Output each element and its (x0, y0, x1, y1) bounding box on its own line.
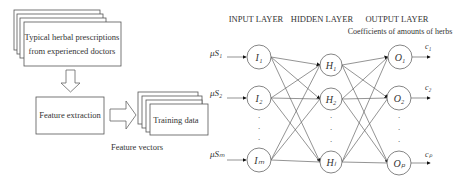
svg-text:·: · (258, 135, 261, 144)
svg-text:Iₘ: Iₘ (253, 155, 264, 166)
input-arrows: μS₁ μS₂ μSₘ (209, 48, 246, 160)
svg-text:·: · (330, 125, 333, 134)
ellipsis-dots: · (258, 113, 261, 122)
prescriptions-line1: Typical herbal prescriptions (25, 32, 120, 42)
svg-text:·: · (330, 137, 333, 146)
coef-label-2: c₂ (425, 83, 432, 92)
svg-text:Oₚ: Oₚ (393, 158, 405, 169)
svg-text:·: · (398, 137, 401, 146)
output-arrows: c₁ c₂ cₚ (411, 42, 433, 163)
right-arrow-icon (110, 101, 136, 129)
coef-label-1: c₁ (425, 42, 432, 51)
svg-text:I₁: I₁ (255, 52, 263, 63)
hidden-output-edges (342, 57, 388, 163)
input-hidden-edges (271, 57, 320, 162)
svg-text:·: · (258, 124, 261, 133)
svg-text:H₂: H₂ (325, 94, 337, 105)
output-layer-title: OUTPUT LAYER (365, 14, 428, 24)
svg-text:·: · (330, 113, 333, 122)
svg-text:I₂: I₂ (255, 93, 263, 104)
hidden-layer-title: HIDDEN LAYER (291, 14, 354, 24)
svg-text:Hₗ: Hₗ (325, 157, 336, 168)
feature-extraction-box: Feature extraction (36, 97, 104, 134)
svg-text:O₂: O₂ (394, 93, 405, 104)
feature-extraction-label: Feature extraction (39, 110, 101, 120)
input-label-2: μS₂ (209, 88, 222, 98)
input-layer-title: INPUT LAYER (229, 14, 284, 24)
svg-text:O₁: O₁ (395, 52, 406, 63)
coef-label-p: cₚ (425, 150, 433, 159)
input-nodes: I₁ I₂ Iₘ · · · (247, 45, 271, 172)
prescriptions-stack: Typical herbal prescriptions from experi… (14, 10, 121, 66)
hidden-nodes: H₁ H₂ Hₗ · · · (320, 54, 342, 173)
training-data-stack: Training data (138, 92, 208, 135)
output-nodes: O₁ O₂ Oₚ · · · (387, 45, 412, 175)
svg-text:·: · (398, 113, 401, 122)
down-arrow-icon (61, 70, 80, 92)
svg-text:H₁: H₁ (325, 60, 337, 71)
prescriptions-line2: from experienced doctors (29, 46, 116, 56)
neural-network-diagram: Typical herbal prescriptions from experi… (0, 0, 466, 184)
feature-vectors-caption: Feature vectors (111, 142, 163, 152)
output-caption: Coefficients of amounts of herbs (348, 27, 453, 36)
training-data-label: Training data (153, 115, 198, 125)
input-label-m: μSₘ (209, 149, 225, 159)
input-label-1: μS₁ (209, 48, 222, 58)
svg-text:·: · (398, 125, 401, 134)
